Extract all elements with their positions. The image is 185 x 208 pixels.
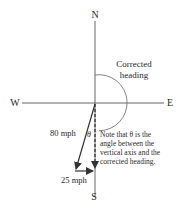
arc-label-line2: heading (120, 70, 149, 80)
diagram-canvas: N S W E Corrected heading 80 mph 25 mph … (0, 0, 185, 208)
arc-label-line1: Corrected (116, 59, 152, 69)
airspeed-vector (76, 104, 95, 169)
east-label: E (167, 97, 173, 108)
note-line1: Note that θ is the (100, 130, 152, 139)
note-line3: vertical axis and the (100, 148, 161, 157)
note-line2: angle between the (100, 139, 155, 148)
north-label: N (91, 9, 98, 20)
south-label: S (91, 191, 97, 202)
note-line4: corrected heading. (100, 157, 156, 166)
theta-label: θ (87, 130, 91, 139)
airspeed-label: 80 mph (50, 128, 76, 138)
west-label: W (10, 97, 20, 108)
wind-label: 25 mph (61, 175, 87, 185)
